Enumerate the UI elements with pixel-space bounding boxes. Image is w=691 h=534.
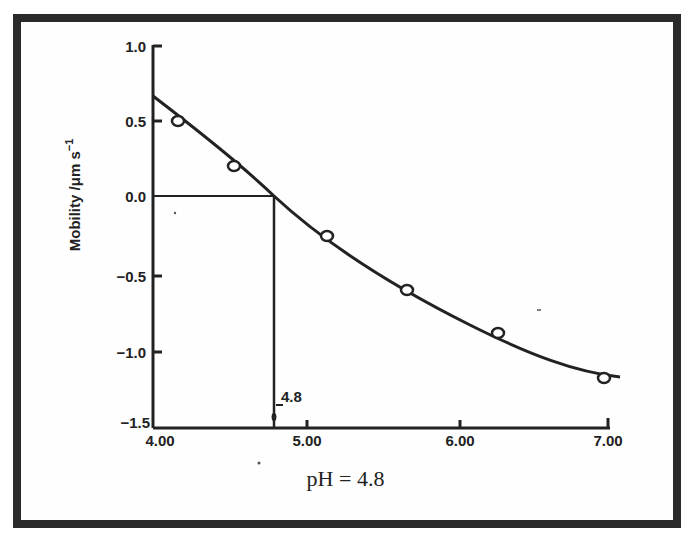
data-point xyxy=(401,285,413,295)
y-axis-label-superscript: −1 xyxy=(63,139,75,152)
data-point xyxy=(321,231,333,241)
isoelectric-annotation: 4.8 xyxy=(281,388,302,405)
y-tick-label: −0.5 xyxy=(116,268,146,285)
data-points xyxy=(172,116,610,383)
figure-caption: pH = 4.8 xyxy=(0,466,691,492)
fitted-curve xyxy=(153,96,620,377)
mobility-chart: 1.0 0.5 0.0 −0.5 −1.0 −1.5 4.00 5.00 6.0… xyxy=(0,0,691,534)
axes xyxy=(153,45,610,428)
data-point xyxy=(598,373,610,383)
y-tick-label: 0.5 xyxy=(125,113,146,130)
y-axis-label: Mobility /μm s−1 xyxy=(63,139,83,252)
x-tick-label: 6.00 xyxy=(445,432,474,449)
data-point xyxy=(492,328,504,338)
x-tick-label: 5.00 xyxy=(292,432,321,449)
y-tick-label: −1.5 xyxy=(120,414,150,431)
isoelectric-guides xyxy=(153,196,283,428)
y-tick-label: 1.0 xyxy=(125,38,146,55)
data-point xyxy=(228,161,240,171)
x-tick-label: 4.00 xyxy=(145,432,174,449)
x-tick-labels: 4.00 5.00 6.00 7.00 xyxy=(145,432,622,449)
y-tick-label: 0.0 xyxy=(125,188,146,205)
y-tick-label: −1.0 xyxy=(116,344,146,361)
y-axis-label-text: Mobility /μm s xyxy=(66,151,83,251)
data-point xyxy=(172,116,184,126)
x-tick-label: 7.00 xyxy=(593,432,622,449)
y-tick-labels: 1.0 0.5 0.0 −0.5 −1.0 −1.5 xyxy=(116,38,150,431)
